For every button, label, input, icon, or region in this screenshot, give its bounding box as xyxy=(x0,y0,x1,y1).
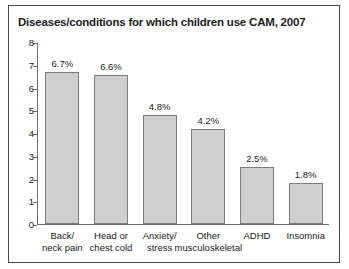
bar-slot: 2.5% xyxy=(240,43,274,224)
bar-value-label: 4.8% xyxy=(149,101,171,112)
y-axis-tick-label: 6 xyxy=(14,82,34,95)
bar-value-label: 4.2% xyxy=(198,115,220,126)
bar-slot: 4.2% xyxy=(191,43,225,224)
bar[interactable] xyxy=(191,129,225,224)
bar-series: 6.7%6.6%4.8%4.2%2.5%1.8% xyxy=(38,43,329,224)
chart-figure: Diseases/conditions for which children u… xyxy=(8,5,340,263)
bar[interactable] xyxy=(240,167,274,224)
x-axis-category-label: Insomnia xyxy=(258,230,349,242)
chart-title: Diseases/conditions for which children u… xyxy=(18,16,305,28)
x-axis-category-line: musculoskeletal xyxy=(160,242,256,254)
y-axis-tick-label: 7 xyxy=(14,59,34,72)
x-axis-category-line: Insomnia xyxy=(258,230,349,242)
bar-slot: 6.6% xyxy=(94,43,128,224)
bar[interactable] xyxy=(94,75,128,224)
bar-slot: 6.7% xyxy=(45,43,79,224)
y-axis-tick-label: 4 xyxy=(14,127,34,140)
y-axis-tick-label: 3 xyxy=(14,150,34,163)
y-axis-tick-label: 5 xyxy=(14,104,34,117)
bar[interactable] xyxy=(289,183,323,224)
y-axis-tick-label: 2 xyxy=(14,173,34,186)
bar[interactable] xyxy=(143,115,177,224)
y-axis-tick-label: 8 xyxy=(14,36,34,49)
bar[interactable] xyxy=(45,72,79,224)
bar-value-label: 2.5% xyxy=(246,153,268,164)
bar-value-label: 6.6% xyxy=(100,61,122,72)
y-axis-tick-label: 1 xyxy=(14,195,34,208)
bar-value-label: 6.7% xyxy=(52,58,74,69)
bar-slot: 4.8% xyxy=(143,43,177,224)
x-axis-line xyxy=(37,224,329,225)
bar-slot: 1.8% xyxy=(289,43,323,224)
plot-area: 012345678 6.7%6.6%4.8%4.2%2.5%1.8% xyxy=(37,43,329,225)
bar-value-label: 1.8% xyxy=(295,169,317,180)
